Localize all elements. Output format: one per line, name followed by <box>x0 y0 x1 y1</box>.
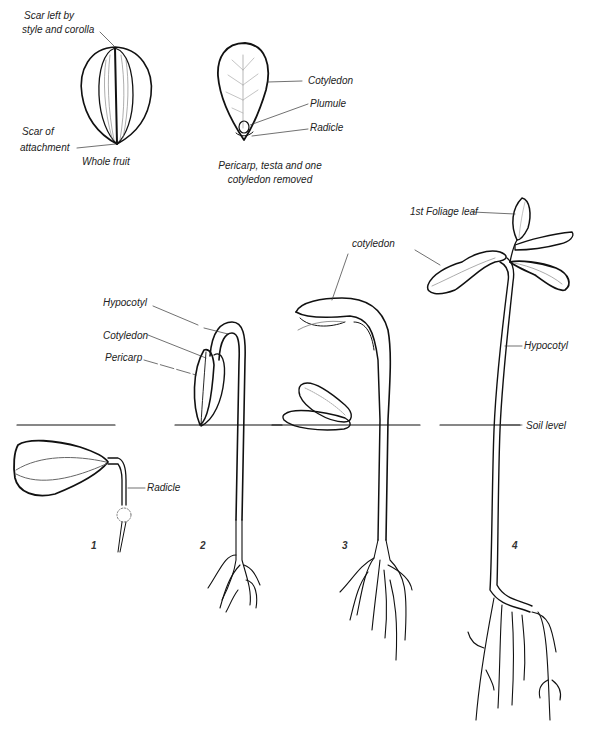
label-stage2-cotyledon: Cotyledon <box>103 330 148 341</box>
germination-diagram <box>0 0 590 740</box>
label-scar-style-1: Scar left by <box>24 10 74 21</box>
label-soil-level: Soil level <box>526 420 566 431</box>
label-scar-attach-1: Scar of <box>22 126 54 137</box>
caption-opened-seed-line1: Pericarp, testa and one <box>200 159 340 173</box>
label-stage1-radicle: Radicle <box>147 482 180 493</box>
label-radicle-top: Radicle <box>310 122 343 133</box>
caption-opened-seed: Pericarp, testa and one cotyledon remove… <box>200 159 340 187</box>
whole-fruit-drawing <box>77 32 151 148</box>
caption-opened-seed-line2: cotyledon removed <box>200 173 340 187</box>
stage-3-drawing <box>283 254 412 660</box>
label-stage4-foliage-leaf: 1st Foliage leaf <box>410 206 478 217</box>
label-plumule: Plumule <box>310 98 346 109</box>
stage-number-2: 2 <box>200 540 206 551</box>
label-scar-style-2: style and corolla <box>22 24 94 35</box>
stage-2-drawing <box>144 306 260 612</box>
opened-seed-drawing <box>218 43 308 140</box>
stage-number-1: 1 <box>91 540 97 551</box>
stage-number-3: 3 <box>342 540 348 551</box>
label-stage4-hypocotyl: Hypocotyl <box>524 340 568 351</box>
stage-4-drawing <box>415 198 573 720</box>
label-stage3-cotyledon: cotyledon <box>352 238 395 249</box>
label-scar-attach-2: attachment <box>20 142 69 153</box>
stage-1-drawing <box>14 441 145 552</box>
caption-whole-fruit: Whole fruit <box>82 156 130 167</box>
stage-number-4: 4 <box>512 540 518 551</box>
label-stage2-pericarp: Pericarp <box>105 352 142 363</box>
label-cotyledon-top: Cotyledon <box>308 75 353 86</box>
label-stage2-hypocotyl: Hypocotyl <box>103 297 147 308</box>
